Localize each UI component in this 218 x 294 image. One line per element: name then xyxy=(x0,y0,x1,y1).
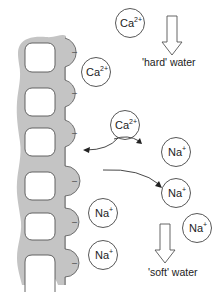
negative-charge: – xyxy=(72,88,77,98)
resin-pore xyxy=(25,43,55,72)
ion-exchange-diagram: – – – – – – Ca2+ Ca2+ Ca2+ Na+ Na+ Na+ N… xyxy=(0,0,218,294)
negative-charge: – xyxy=(72,258,77,268)
resin-backbone: – – – – – – xyxy=(17,35,80,292)
exchange-arrows xyxy=(86,137,160,185)
negative-charge: – xyxy=(72,47,77,57)
resin-pore xyxy=(25,88,55,116)
negative-charge: – xyxy=(72,128,77,138)
resin-pore xyxy=(25,128,55,156)
negative-charge: – xyxy=(72,217,77,227)
resin-pore xyxy=(25,213,55,240)
arrow-calcium-to-resin xyxy=(86,138,118,150)
hard-water-label: 'hard' water xyxy=(142,56,196,68)
hard-water-arrow-icon xyxy=(162,16,182,55)
arrow-sodium-released xyxy=(103,170,160,185)
arrowheads xyxy=(83,138,162,188)
resin-pore xyxy=(25,172,55,200)
resin-pore xyxy=(25,255,55,292)
soft-water-arrow-icon xyxy=(155,224,175,263)
charge-sites: – – – – – – xyxy=(72,47,77,268)
soft-water-label: 'soft' water xyxy=(148,266,198,278)
negative-charge: – xyxy=(72,176,77,186)
